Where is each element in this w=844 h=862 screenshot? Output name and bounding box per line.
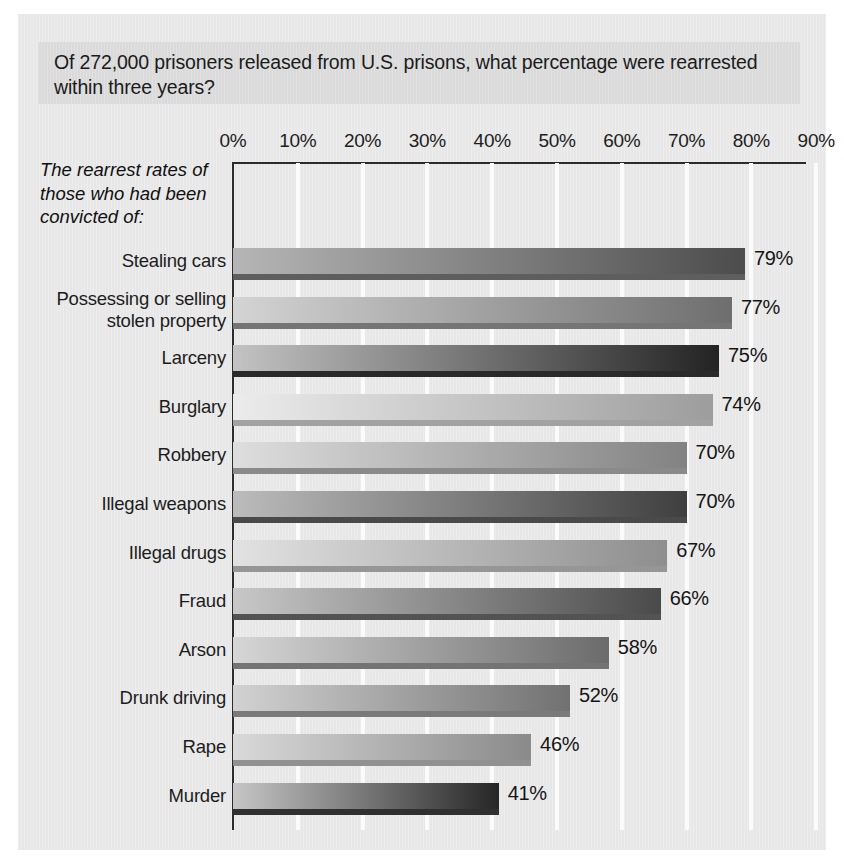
bar-shadow [233, 566, 667, 572]
bar-shadow [233, 323, 732, 329]
x-tick-label-40: 40% [462, 130, 522, 152]
category-label: Fraud [36, 590, 226, 612]
bar-row[interactable]: 75% [233, 345, 839, 379]
category-label-line: stolen property [36, 310, 226, 332]
bar-value-label: 67% [676, 539, 715, 562]
bar-row[interactable]: 46% [233, 734, 651, 768]
x-tick-label-80: 80% [721, 130, 781, 152]
x-axis-tick-labels: 0%10%20%30%40%50%60%70%80%90% [0, 130, 844, 154]
bar-row[interactable]: 67% [233, 540, 787, 574]
bar-shadow [233, 711, 570, 717]
plot-area: 79%77%75%74%70%70%67%66%58%52%46%41% [233, 163, 805, 830]
bar-value-label: 74% [722, 393, 761, 416]
bar[interactable] [233, 685, 570, 711]
category-label: Murder [36, 785, 226, 807]
bar-row[interactable]: 74% [233, 394, 833, 428]
bar-value-label: 77% [741, 296, 780, 319]
bar[interactable] [233, 442, 687, 468]
bar-value-label: 58% [618, 636, 657, 659]
x-tick-label-60: 60% [592, 130, 652, 152]
x-tick-label-20: 20% [333, 130, 393, 152]
category-label: Stealing cars [36, 250, 226, 272]
bar[interactable] [233, 248, 745, 274]
bar[interactable] [233, 345, 719, 371]
bar[interactable] [233, 783, 499, 809]
category-label-line: Fraud [36, 590, 226, 612]
category-labels-column: Stealing carsPossessing or sellingstolen… [30, 163, 226, 830]
category-label-line: Larceny [36, 347, 226, 369]
bar-shadow [233, 274, 745, 280]
bar-shadow [233, 760, 531, 766]
bar[interactable] [233, 734, 531, 760]
bar-shadow [233, 517, 687, 523]
bar[interactable] [233, 491, 687, 517]
category-label: Illegal weapons [36, 493, 226, 515]
category-label: Rape [36, 736, 226, 758]
bar-value-label: 66% [670, 587, 709, 610]
category-label: Illegal drugs [36, 542, 226, 564]
category-label-line: Arson [36, 639, 226, 661]
category-label-line: Murder [36, 785, 226, 807]
bar-value-label: 70% [696, 490, 735, 513]
x-tick-label-0: 0% [203, 130, 263, 152]
bar-shadow [233, 663, 609, 669]
category-label: Possessing or sellingstolen property [36, 288, 226, 332]
x-tick-label-70: 70% [657, 130, 717, 152]
category-label-line: Robbery [36, 444, 226, 466]
category-label-line: Illegal drugs [36, 542, 226, 564]
bar-shadow [233, 614, 661, 620]
bar-value-label: 79% [754, 247, 793, 270]
category-label-line: Drunk driving [36, 687, 226, 709]
bar-row[interactable]: 77% [233, 297, 844, 331]
bar[interactable] [233, 297, 732, 323]
bar-value-label: 46% [540, 733, 579, 756]
x-tick-label-90: 90% [786, 130, 844, 152]
bar-row[interactable]: 52% [233, 685, 690, 719]
bar[interactable] [233, 540, 667, 566]
x-tick-label-10: 10% [268, 130, 328, 152]
category-label: Arson [36, 639, 226, 661]
bar-shadow [233, 809, 499, 815]
bar-row[interactable]: 79% [233, 248, 844, 282]
bar-value-label: 52% [579, 684, 618, 707]
category-label-line: Rape [36, 736, 226, 758]
bar-row[interactable]: 41% [233, 783, 619, 817]
bar-shadow [233, 371, 719, 377]
bar[interactable] [233, 588, 661, 614]
chart-page: Of 272,000 prisoners released from U.S. … [0, 0, 844, 862]
category-label-line: Burglary [36, 396, 226, 418]
page-title: Of 272,000 prisoners released from U.S. … [54, 50, 774, 100]
bar-row[interactable]: 66% [233, 588, 781, 622]
category-label: Robbery [36, 444, 226, 466]
category-label: Larceny [36, 347, 226, 369]
bar-shadow [233, 420, 713, 426]
x-tick-label-50: 50% [527, 130, 587, 152]
bar-value-label: 41% [508, 782, 547, 805]
x-tick-label-30: 30% [397, 130, 457, 152]
category-label: Drunk driving [36, 687, 226, 709]
category-label: Burglary [36, 396, 226, 418]
bar[interactable] [233, 637, 609, 663]
category-label-line: Possessing or selling [36, 288, 226, 310]
category-label-line: Stealing cars [36, 250, 226, 272]
bar-value-label: 75% [728, 344, 767, 367]
bar-shadow [233, 468, 687, 474]
bar[interactable] [233, 394, 713, 420]
bar-row[interactable]: 70% [233, 491, 807, 525]
bar-row[interactable]: 58% [233, 637, 729, 671]
bar-value-label: 70% [696, 441, 735, 464]
category-label-line: Illegal weapons [36, 493, 226, 515]
bar-row[interactable]: 70% [233, 442, 807, 476]
